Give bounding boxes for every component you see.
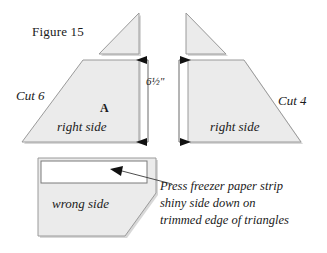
instruction-line-1: Press freezer paper strip — [160, 178, 283, 195]
piece-letter-label: A — [100, 101, 109, 115]
freezer-paper-strip — [41, 161, 147, 183]
left-trimmed-triangle — [99, 13, 139, 54]
instruction-line-3: trimmed edge of triangles — [160, 212, 289, 229]
figure-illustration: Figure 15 Cut 6 A right side 6½" Cut 4 r… — [0, 0, 327, 253]
height-dimension-label: 6½" — [146, 75, 164, 88]
left-cut-count-label: Cut 6 — [16, 88, 45, 103]
right-trimmed-triangle — [186, 13, 226, 54]
instruction-line-2: shiny side down on — [160, 195, 255, 212]
left-right-side-label: right side — [57, 119, 106, 134]
figure-number-label: Figure 15 — [32, 24, 84, 39]
right-right-side-label: right side — [210, 119, 259, 134]
wrong-side-label: wrong side — [52, 196, 109, 211]
right-cut-count-label: Cut 4 — [278, 93, 307, 108]
